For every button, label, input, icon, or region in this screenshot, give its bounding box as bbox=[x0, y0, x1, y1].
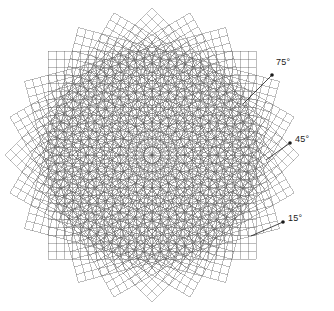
moire-figure: 75° 45° 15° bbox=[0, 0, 334, 311]
annotation-45-leader-line bbox=[266, 143, 290, 160]
annotation-15-leader-line bbox=[251, 222, 283, 236]
annotation-75-dot-marker bbox=[270, 73, 274, 77]
annotation-75-leader-line bbox=[243, 75, 272, 104]
angle-label-75: 75° bbox=[276, 57, 290, 67]
annotation-75 bbox=[243, 73, 274, 104]
angle-label-15: 15° bbox=[288, 213, 302, 223]
annotation-45-dot-marker bbox=[288, 141, 292, 145]
annotation-leaders bbox=[0, 0, 334, 311]
annotation-45 bbox=[266, 141, 292, 160]
annotation-15-dot-marker bbox=[281, 220, 285, 224]
annotation-15 bbox=[251, 220, 285, 236]
angle-label-45: 45° bbox=[295, 134, 309, 144]
